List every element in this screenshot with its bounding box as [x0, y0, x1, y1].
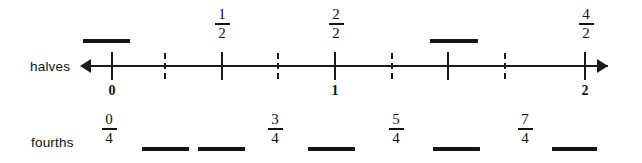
- fourths-fraction-label: 04: [92, 112, 126, 146]
- fraction-denominator: 2: [319, 26, 353, 41]
- fraction-denominator: 4: [258, 131, 292, 146]
- tick-mark-solid: [584, 52, 586, 80]
- whole-number-label: 1: [323, 83, 347, 99]
- number-line-worksheet: halves 012 122242 fourths 04345474: [0, 0, 642, 163]
- fourths-row-label: fourths: [31, 135, 74, 150]
- tick-mark-solid: [221, 52, 223, 80]
- fourths-answer-blank[interactable]: [552, 147, 597, 151]
- halves-fraction-label: 42: [569, 7, 603, 41]
- tick-mark-dashed: [277, 53, 279, 79]
- fraction-numerator: 1: [205, 7, 239, 22]
- fraction-denominator: 4: [508, 131, 542, 146]
- fraction-denominator: 2: [205, 26, 239, 41]
- tick-mark-dashed: [504, 53, 506, 79]
- fourths-fraction-label: 34: [258, 112, 292, 146]
- fraction-numerator: 0: [92, 112, 126, 127]
- arrow-left-icon: [80, 59, 91, 73]
- fraction-denominator: 4: [379, 131, 413, 146]
- arrow-right-icon: [597, 59, 608, 73]
- halves-answer-blank[interactable]: [430, 39, 478, 43]
- tick-mark-solid: [111, 52, 113, 80]
- fourths-answer-blank[interactable]: [198, 147, 245, 151]
- halves-answer-blank[interactable]: [83, 39, 130, 43]
- halves-row-label: halves: [30, 59, 70, 74]
- fraction-denominator: 4: [92, 131, 126, 146]
- fourths-fraction-label: 74: [508, 112, 542, 146]
- fraction-numerator: 5: [379, 112, 413, 127]
- tick-mark-dashed: [164, 53, 166, 79]
- whole-number-label: 0: [100, 83, 124, 99]
- number-line-axis: [84, 65, 608, 67]
- fraction-denominator: 2: [569, 26, 603, 41]
- whole-number-label: 2: [573, 83, 597, 99]
- fourths-answer-blank[interactable]: [433, 147, 480, 151]
- tick-mark-solid: [447, 52, 449, 80]
- halves-fraction-label: 12: [205, 7, 239, 41]
- tick-mark-solid: [334, 52, 336, 80]
- fraction-numerator: 7: [508, 112, 542, 127]
- tick-mark-dashed: [391, 53, 393, 79]
- fourths-answer-blank[interactable]: [142, 147, 189, 151]
- fraction-numerator: 3: [258, 112, 292, 127]
- fraction-numerator: 2: [319, 7, 353, 22]
- halves-fraction-label: 22: [319, 7, 353, 41]
- fourths-answer-blank[interactable]: [308, 147, 355, 151]
- fourths-fraction-label: 54: [379, 112, 413, 146]
- fraction-numerator: 4: [569, 7, 603, 22]
